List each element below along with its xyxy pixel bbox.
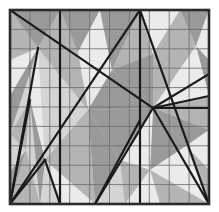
mesh-figure xyxy=(0,0,219,212)
triangulated-square-diagram xyxy=(0,0,219,212)
